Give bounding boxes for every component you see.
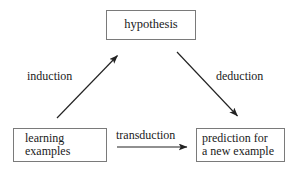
node-learning-examples-label-line2: examples [25,145,70,158]
edge-label-induction: induction [27,70,72,82]
edge-induction-arrow [57,56,118,119]
node-learning-examples[interactable]: learning examples [13,128,107,162]
edge-deduction-arrow [177,52,238,116]
node-prediction-label-line2: a new example [202,145,274,158]
node-prediction[interactable]: prediction for a new example [196,128,285,162]
edge-label-deduction: deduction [216,70,263,82]
node-hypothesis-label: hypothesis [124,18,177,32]
diagram-canvas: hypothesis learning examples prediction … [0,0,300,174]
node-hypothesis[interactable]: hypothesis [106,10,196,40]
edge-label-transduction: transduction [116,129,175,141]
